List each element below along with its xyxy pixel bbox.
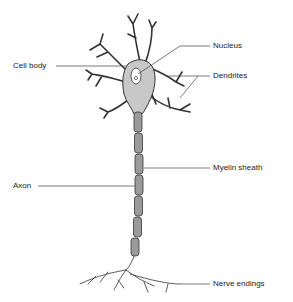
cell-body — [123, 60, 155, 114]
myelin-sheath — [131, 112, 143, 256]
label-axon: Axon — [13, 181, 31, 191]
label-myelin-sheath: Myelin sheath — [213, 163, 262, 173]
nerve-endings — [80, 256, 180, 292]
neuron-diagram — [0, 0, 293, 302]
label-nucleus: Nucleus — [213, 41, 242, 51]
nucleus — [131, 68, 141, 84]
label-nerve-endings: Nerve endings — [213, 279, 265, 289]
label-cell-body: Cell body — [13, 61, 46, 71]
label-dendrites: Dendrites — [213, 71, 247, 81]
